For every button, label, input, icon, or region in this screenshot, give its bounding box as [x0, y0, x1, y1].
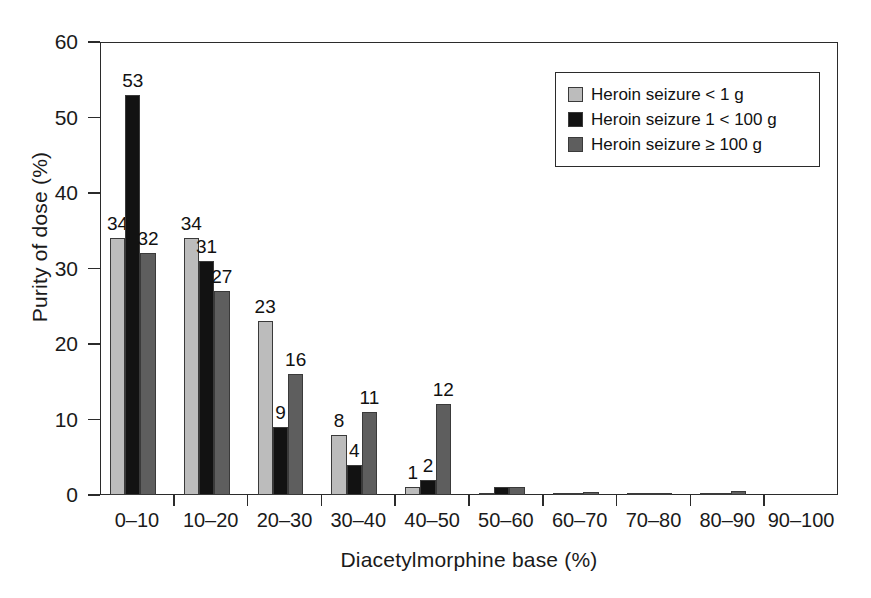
x-axis-tick [763, 495, 765, 506]
y-axis-tick [88, 117, 100, 119]
bar [627, 493, 642, 495]
legend-item: Heroin seizure < 1 g [568, 82, 809, 107]
bar [568, 493, 583, 495]
x-axis-tick-label: 20–30 [248, 510, 322, 530]
x-axis-title: Diacetylmorphine base (%) [100, 548, 838, 572]
legend-item: Heroin seizure 1 < 100 g [568, 107, 809, 132]
x-axis-tick-label: 60–70 [543, 510, 617, 530]
x-axis-tick [468, 495, 470, 506]
bar [642, 493, 657, 495]
bar-value-label: 34 [177, 214, 206, 233]
y-axis-tick [88, 494, 100, 496]
bar [479, 493, 494, 495]
bar-value-label: 12 [429, 380, 458, 399]
bar [436, 404, 451, 495]
bar-value-label: 31 [192, 237, 221, 256]
bar-group: 23916 [258, 42, 304, 495]
bar [583, 492, 598, 495]
y-axis-tick-label: 10 [18, 409, 78, 430]
legend-swatch-icon [568, 87, 583, 102]
bar-value-label: 27 [207, 267, 236, 286]
legend-label: Heroin seizure 1 < 100 g [591, 111, 777, 128]
x-axis-tick [394, 495, 396, 506]
y-axis-tick-label: 50 [18, 107, 78, 128]
bar [140, 253, 155, 495]
bar-value-label: 53 [118, 71, 147, 90]
bar [405, 487, 420, 495]
x-axis-tick-label: 50–60 [469, 510, 543, 530]
bar-value-label: 32 [134, 229, 163, 248]
bar-group: 343127 [184, 42, 230, 495]
bar [199, 261, 214, 495]
x-axis-tick [321, 495, 323, 506]
legend-item: Heroin seizure ≥ 100 g [568, 132, 809, 157]
bar [110, 238, 125, 495]
legend-swatch-icon [568, 137, 583, 152]
x-axis-tick [247, 495, 249, 506]
legend-swatch-icon [568, 112, 583, 127]
chart-figure: Purity of dose (%) 0102030405060 3453323… [0, 0, 871, 598]
bar-value-label: 23 [251, 297, 280, 316]
bar [347, 465, 362, 495]
y-axis-tick [88, 419, 100, 421]
y-axis-title: Purity of dose (%) [28, 7, 52, 467]
x-axis-tick [616, 495, 618, 506]
bar-group: 8411 [331, 42, 377, 495]
bar [553, 493, 568, 495]
bar-group [479, 42, 525, 495]
y-axis-tick-label: 20 [18, 333, 78, 354]
bar-group: 345332 [110, 42, 156, 495]
x-axis-tick-label: 80–90 [690, 510, 764, 530]
chart-legend: Heroin seizure < 1 gHeroin seizure 1 < 1… [555, 72, 820, 167]
y-axis-tick-label: 40 [18, 182, 78, 203]
x-axis-tick-label: 0–10 [100, 510, 174, 530]
x-axis-tick-label: 70–80 [617, 510, 691, 530]
x-axis-tick-label: 90–100 [764, 510, 838, 530]
y-axis-tick-label: 60 [18, 31, 78, 52]
bar [214, 291, 229, 495]
x-axis-tick [173, 495, 175, 506]
x-axis-tick-label: 40–50 [395, 510, 469, 530]
bar [509, 487, 524, 495]
y-axis-tick [88, 268, 100, 270]
x-axis-tick [690, 495, 692, 506]
bar-value-label: 16 [281, 350, 310, 369]
x-axis-tick-label: 30–40 [321, 510, 395, 530]
y-axis-tick [88, 343, 100, 345]
bar [494, 487, 509, 495]
x-axis-tick-label: 10–20 [174, 510, 248, 530]
bar [716, 493, 731, 495]
bar [288, 374, 303, 495]
bar [273, 427, 288, 495]
bar [657, 493, 672, 495]
bar-value-label: 8 [325, 411, 354, 430]
bar [731, 491, 746, 495]
legend-label: Heroin seizure ≥ 100 g [591, 136, 762, 153]
y-axis-tick-label: 30 [18, 258, 78, 279]
x-axis-tick [542, 495, 544, 506]
legend-label: Heroin seizure < 1 g [591, 86, 744, 103]
bar [125, 95, 140, 495]
bar [700, 493, 715, 495]
bar [184, 238, 199, 495]
y-axis-tick-label: 0 [18, 484, 78, 505]
bar-value-label: 11 [355, 388, 384, 407]
y-axis-tick [88, 41, 100, 43]
y-axis-tick [88, 192, 100, 194]
bar [420, 480, 435, 495]
bar [362, 412, 377, 495]
bar-group: 1212 [405, 42, 451, 495]
